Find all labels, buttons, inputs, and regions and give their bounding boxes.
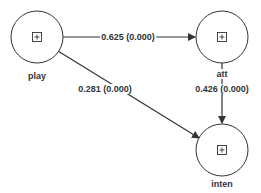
- path-diagram-canvas: [0, 0, 261, 193]
- node-play[interactable]: [11, 11, 63, 63]
- edge-label-att-inten: 0.426 (0.000): [194, 84, 250, 94]
- expand-plus-icon[interactable]: [218, 33, 227, 42]
- node-label-inten: inten: [211, 179, 233, 189]
- node-inten[interactable]: [196, 124, 248, 176]
- node-label-att: att: [216, 69, 229, 79]
- edge-label-play-inten: 0.281 (0.000): [77, 84, 133, 94]
- expand-plus-icon[interactable]: [33, 33, 42, 42]
- node-att[interactable]: [196, 11, 248, 63]
- edge-play-inten[interactable]: [58, 51, 199, 138]
- node-label-play: play: [28, 71, 46, 81]
- expand-plus-icon[interactable]: [218, 146, 227, 155]
- edge-label-play-att: 0.625 (0.000): [100, 32, 156, 42]
